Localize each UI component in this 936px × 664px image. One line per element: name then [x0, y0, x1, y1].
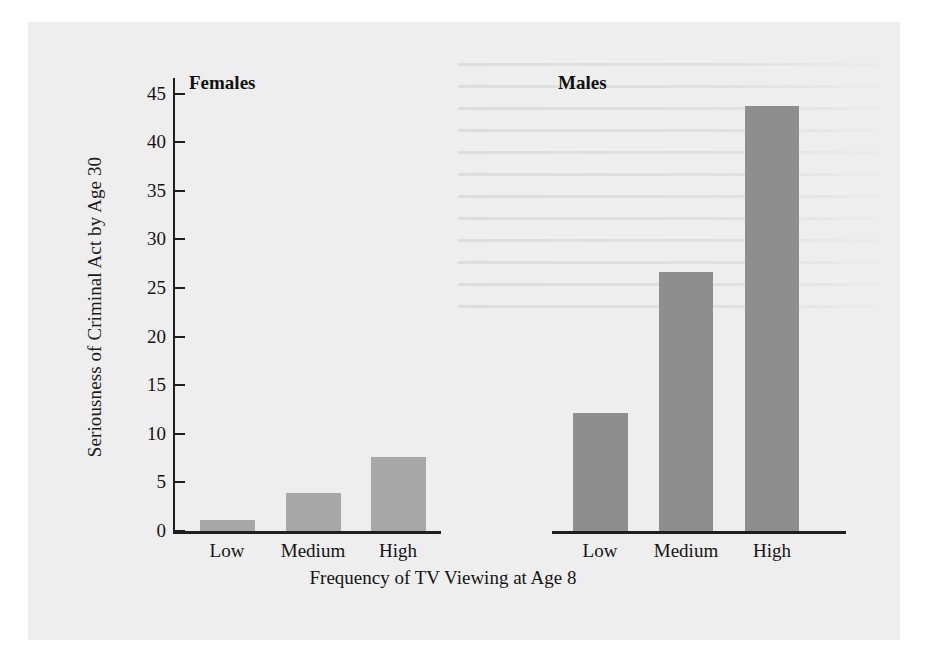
bars-layer — [0, 0, 936, 532]
bar-females-medium — [286, 493, 341, 531]
x-axis-label-females-high: High — [343, 540, 453, 562]
x-axis-title: Frequency of TV Viewing at Age 8 — [173, 567, 713, 589]
bar-chart-figure: Seriousness of Criminal Act by Age 30 05… — [0, 0, 936, 664]
bar-males-medium — [659, 272, 713, 531]
bar-males-high — [745, 106, 799, 531]
x-axis-label-males-high: High — [717, 540, 827, 562]
bar-females-high — [371, 457, 426, 531]
bar-females-low — [200, 520, 255, 531]
bar-males-low — [573, 413, 628, 531]
